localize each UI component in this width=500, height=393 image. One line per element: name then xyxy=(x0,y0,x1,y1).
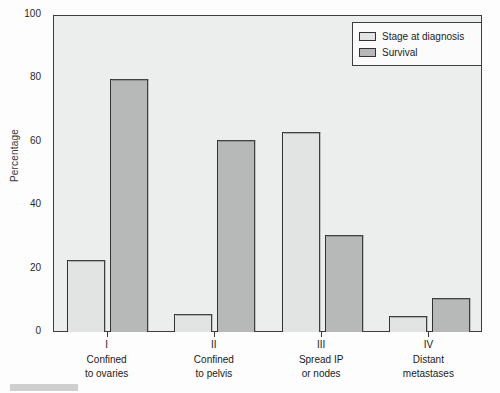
category-description-line1: Confined xyxy=(154,353,274,368)
caption-fragment-bar xyxy=(10,384,78,391)
bar-iii-series1 xyxy=(325,235,363,332)
y-axis-tick-label: 0 xyxy=(35,325,41,336)
legend-swatch-icon xyxy=(359,48,376,57)
legend-item-label: Survival xyxy=(382,47,418,58)
category-roman-numeral: III xyxy=(261,338,381,353)
y-axis-tick-label: 80 xyxy=(30,71,41,82)
y-axis-label: Percentage xyxy=(9,116,20,196)
x-axis-category-label: IIISpread IPor nodes xyxy=(261,338,381,382)
y-axis-tick-label: 100 xyxy=(24,8,41,19)
x-axis-tick-mark xyxy=(428,332,429,337)
category-description-line2: to ovaries xyxy=(47,367,167,382)
category-description-line2: metastases xyxy=(368,367,488,382)
legend: Stage at diagnosis Survival xyxy=(352,22,482,66)
bar-ii-series1 xyxy=(217,140,255,332)
bar-iv-series0 xyxy=(389,316,427,332)
bar-i-series1 xyxy=(110,79,148,332)
x-axis-category-label: IVDistantmetastases xyxy=(368,338,488,382)
category-description-line1: Spread IP xyxy=(261,353,381,368)
x-axis-tick-mark xyxy=(214,332,215,337)
x-axis-category-label: IIConfinedto pelvis xyxy=(154,338,274,382)
x-axis-tick-mark xyxy=(321,332,322,337)
bar-iv-series1 xyxy=(432,298,470,332)
y-axis-tick-label: 60 xyxy=(30,135,41,146)
legend-item-label: Stage at diagnosis xyxy=(382,31,464,42)
x-axis-category-label: IConfinedto ovaries xyxy=(47,338,167,382)
y-axis-tick-label: 20 xyxy=(30,262,41,273)
bar-ii-series0 xyxy=(174,314,212,332)
category-roman-numeral: I xyxy=(47,338,167,353)
category-roman-numeral: IV xyxy=(368,338,488,353)
x-axis-tick-mark xyxy=(107,332,108,337)
category-description-line2: or nodes xyxy=(261,367,381,382)
legend-swatch-icon xyxy=(359,32,376,41)
figure: Percentage 020406080100 IConfinedto ovar… xyxy=(0,0,500,393)
legend-item-stage-at-diagnosis: Stage at diagnosis xyxy=(353,28,481,44)
category-roman-numeral: II xyxy=(154,338,274,353)
y-axis-tick-label: 40 xyxy=(30,198,41,209)
legend-item-survival: Survival xyxy=(353,44,481,60)
bar-iii-series0 xyxy=(282,132,320,332)
bar-i-series0 xyxy=(67,260,105,332)
category-description-line2: to pelvis xyxy=(154,367,274,382)
category-description-line1: Distant xyxy=(368,353,488,368)
category-description-line1: Confined xyxy=(47,353,167,368)
